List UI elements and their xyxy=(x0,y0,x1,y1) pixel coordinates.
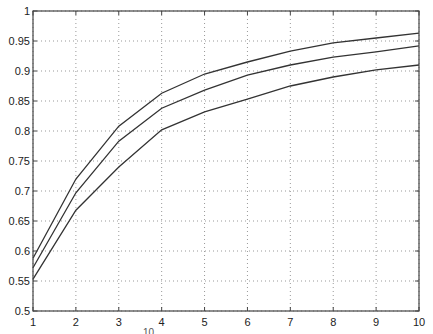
y-tick-label: 0.95 xyxy=(9,35,30,47)
cut-off-axis-label: 10 xyxy=(143,328,157,334)
x-tick-label: 4 xyxy=(159,316,165,328)
y-axis-tick-labels: 0.50.550.60.650.70.750.80.850.90.951 xyxy=(9,5,30,317)
series-line-middle xyxy=(33,46,419,268)
x-tick-label: 9 xyxy=(373,316,379,328)
line-chart: 12345678910 0.50.550.60.650.70.750.80.85… xyxy=(0,0,433,334)
series-line-upper xyxy=(33,33,419,258)
y-tick-label: 0.55 xyxy=(9,275,30,287)
x-tick-label: 3 xyxy=(116,316,122,328)
series-line-lower xyxy=(33,65,419,279)
x-tick-label: 10 xyxy=(413,316,425,328)
y-tick-label: 0.9 xyxy=(15,65,30,77)
x-tick-label: 5 xyxy=(201,316,207,328)
y-tick-label: 0.75 xyxy=(9,155,30,167)
x-tick-label: 8 xyxy=(330,316,336,328)
y-tick-label: 0.85 xyxy=(9,95,30,107)
y-tick-label: 0.5 xyxy=(15,305,30,317)
y-tick-label: 0.65 xyxy=(9,215,30,227)
y-tick-label: 0.6 xyxy=(15,245,30,257)
x-tick-label: 7 xyxy=(287,316,293,328)
y-tick-label: 0.7 xyxy=(15,185,30,197)
y-tick-label: 1 xyxy=(24,5,30,17)
data-series xyxy=(33,33,419,279)
x-tick-label: 1 xyxy=(30,316,36,328)
y-tick-label: 0.8 xyxy=(15,125,30,137)
x-tick-label: 6 xyxy=(244,316,250,328)
x-tick-label: 2 xyxy=(73,316,79,328)
x-axis-tick-labels: 12345678910 xyxy=(30,316,425,328)
